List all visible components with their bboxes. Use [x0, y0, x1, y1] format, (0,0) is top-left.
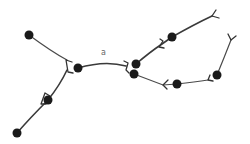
edge-n1-n2: [29, 35, 67, 60]
fork-marks: [41, 10, 236, 104]
edge-n3-n5: [136, 37, 172, 64]
node-n4[interactable]: [130, 70, 139, 79]
node-n3[interactable]: [132, 60, 141, 69]
edge-n8-n9: [17, 100, 48, 133]
fork-icon: [124, 61, 129, 73]
node-n8[interactable]: [44, 96, 53, 105]
node-n2[interactable]: [74, 64, 83, 73]
edge-n2-n8: [48, 70, 67, 100]
tree-diagram: a: [0, 0, 250, 144]
node-n7[interactable]: [213, 71, 222, 80]
edge-n4-n6: [134, 74, 177, 85]
node-n9[interactable]: [13, 129, 22, 138]
edge-label-a: a: [101, 48, 106, 57]
edges: [17, 16, 231, 133]
edge-n7-tip2: [217, 40, 231, 75]
node-n5[interactable]: [168, 33, 177, 42]
node-n6[interactable]: [173, 80, 182, 89]
edge-n2-n3: [78, 63, 126, 68]
fork-icon: [212, 10, 219, 18]
edge-n6-n7: [177, 80, 208, 84]
fork-icon: [228, 34, 236, 40]
node-n1[interactable]: [25, 31, 34, 40]
nodes: [13, 31, 222, 138]
fork-icon: [208, 75, 213, 81]
edge-n5-tip1: [172, 16, 212, 37]
